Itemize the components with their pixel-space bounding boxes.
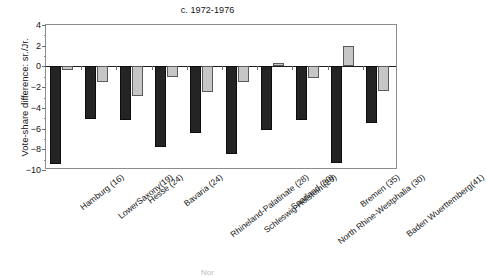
bar-senior (261, 66, 272, 129)
y-tick-label: 4 (36, 20, 41, 30)
y-tick-label: −4 (31, 103, 41, 113)
bar-senior (226, 66, 237, 154)
plot-area: 420−2−4−6−8−10 (45, 24, 397, 169)
bar-group (328, 25, 363, 168)
bar-junior (378, 66, 389, 91)
cropped-footer-text: Nor (0, 268, 415, 277)
bar-senior (366, 66, 377, 123)
bar-junior (62, 66, 73, 69)
bar-group (363, 25, 398, 168)
bar-junior (202, 66, 213, 92)
y-tick-label: 2 (36, 41, 41, 51)
bar-junior (343, 46, 354, 67)
bar-senior (50, 66, 61, 163)
bar-group (292, 25, 327, 168)
bar-group (187, 25, 222, 168)
x-axis-label: Bavaria (24) (182, 172, 225, 208)
bar-junior (132, 66, 143, 96)
y-tick-label: −2 (31, 82, 41, 92)
bar-senior (296, 66, 307, 120)
bar-senior (190, 66, 201, 132)
bar-group (116, 25, 151, 168)
bar-group (81, 25, 116, 168)
bar-group (46, 25, 81, 168)
bar-senior (331, 66, 342, 162)
y-tick (42, 170, 46, 171)
bar-group (152, 25, 187, 168)
bar-senior (120, 66, 131, 120)
y-tick-label: −10 (26, 165, 41, 175)
bar-senior (85, 66, 96, 119)
bar-group (257, 25, 292, 168)
bar-junior (273, 63, 284, 66)
bar-senior (155, 66, 166, 147)
y-axis-label: Vote-share difference: sr./Jr. (19, 18, 30, 178)
x-axis-label: Hamburg (16) (78, 172, 125, 212)
bar-junior (167, 66, 178, 76)
y-tick-label: −6 (31, 124, 41, 134)
y-tick-label: 0 (36, 61, 41, 71)
chart-title: c. 1972-1976 (0, 5, 415, 15)
bar-group (222, 25, 257, 168)
y-tick-label: −8 (31, 144, 41, 154)
bar-junior (308, 66, 319, 77)
bar-junior (97, 66, 108, 82)
bar-junior (238, 66, 249, 82)
